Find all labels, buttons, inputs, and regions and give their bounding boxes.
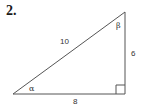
- triangle-outline: [13, 12, 125, 94]
- right-angle-marker: [116, 85, 125, 94]
- right-triangle-diagram: 10 6 8 α β: [0, 0, 142, 112]
- vertical-leg-label: 6: [131, 49, 136, 58]
- horizontal-leg-label: 8: [73, 97, 78, 106]
- hypotenuse-label: 10: [60, 37, 69, 46]
- angle-alpha-label: α: [29, 84, 35, 93]
- angle-beta-label: β: [116, 21, 121, 30]
